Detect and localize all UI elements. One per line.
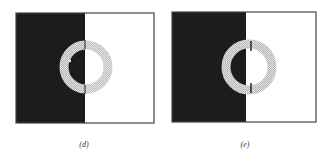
light-half bbox=[85, 13, 154, 123]
caption-e: (e) bbox=[230, 140, 260, 149]
panel-e-graphic bbox=[171, 11, 318, 124]
dot-marker bbox=[69, 60, 71, 62]
caption-d: (d) bbox=[69, 140, 99, 149]
panel-d bbox=[15, 12, 156, 125]
dark-half bbox=[16, 13, 85, 123]
panel-d-graphic bbox=[15, 12, 156, 125]
light-half bbox=[246, 12, 316, 122]
dark-half bbox=[172, 12, 246, 122]
panel-e bbox=[171, 11, 318, 124]
